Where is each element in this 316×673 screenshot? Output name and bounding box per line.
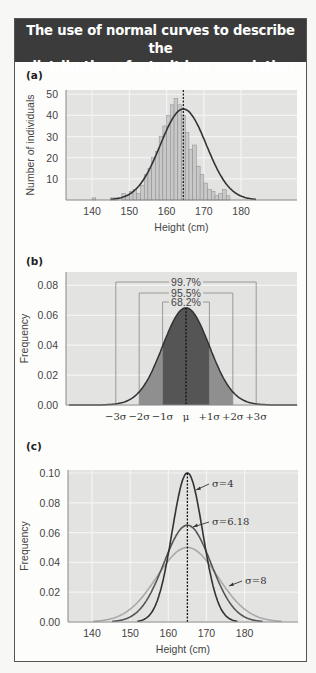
y-tick-label: 0.06: [40, 527, 61, 539]
histogram-bar: [219, 194, 223, 200]
y-tick-label: 0.02: [38, 369, 59, 381]
y-tick-label: 0.04: [40, 556, 61, 568]
x-tick-label: 140: [83, 627, 101, 639]
y-tick-label: 50: [46, 88, 58, 100]
histogram-bar: [211, 192, 215, 200]
x-axis-label: Height (cm): [156, 643, 210, 655]
x-tick-label: 160: [158, 205, 176, 217]
interval-label: 99.7%: [171, 276, 201, 288]
histogram-chart: 1020304050140150160170180Height (cm)Numb…: [24, 88, 297, 233]
x-tick-label: 170: [195, 205, 213, 217]
x-tick-label: −2σ: [128, 411, 150, 422]
histogram-bar: [141, 185, 145, 200]
series-label: σ=4: [212, 478, 234, 489]
y-tick-label: 0.00: [38, 399, 59, 411]
histogram-bar: [189, 149, 193, 200]
y-tick-label: 20: [46, 152, 58, 164]
y-tick-label: 0.02: [40, 586, 61, 598]
interval-label: 95.5%: [171, 287, 201, 299]
y-tick-label: 0.04: [38, 339, 59, 351]
x-tick-label: 160: [160, 627, 178, 639]
histogram-bar: [208, 189, 212, 200]
histogram-bar: [178, 105, 182, 200]
y-axis-label: Frequency: [18, 313, 30, 363]
variance-chart: 0.000.020.040.060.080.10140150160170180σ…: [18, 467, 298, 655]
y-axis-label: Number of individuals: [24, 95, 36, 196]
x-tick-label: 180: [232, 205, 250, 217]
y-tick-label: 0.08: [40, 497, 61, 509]
histogram-bar: [137, 194, 141, 200]
x-tick-label: 180: [236, 627, 254, 639]
histogram-bar: [226, 196, 230, 200]
histogram-bar: [200, 175, 204, 200]
x-tick-label: μ: [183, 411, 190, 422]
x-tick-label: −3σ: [105, 411, 127, 422]
histogram-bar: [222, 189, 226, 200]
x-tick-label: +2σ: [222, 411, 244, 422]
x-tick-label: 140: [83, 205, 101, 217]
y-tick-label: 30: [46, 131, 58, 143]
sigma-chart: 0.000.020.040.060.0868.2%95.5%99.7%−3σ−2…: [18, 272, 297, 422]
x-tick-label: 150: [121, 205, 139, 217]
histogram-bar: [196, 166, 200, 200]
y-tick-label: 0.00: [40, 616, 61, 628]
y-tick-label: 10: [46, 173, 58, 185]
y-tick-label: 40: [46, 109, 58, 121]
x-tick-label: +1σ: [199, 411, 221, 422]
y-tick-label: 0.08: [38, 279, 59, 291]
y-axis-label: Frequency: [18, 520, 30, 570]
charts-canvas: 1020304050140150160170180Height (cm)Numb…: [0, 0, 316, 673]
histogram-bar: [155, 151, 159, 200]
plot-area: [68, 470, 298, 622]
y-tick-label: 0.06: [38, 309, 59, 321]
histogram-bar: [204, 183, 208, 200]
x-tick-label: 170: [198, 627, 216, 639]
series-label: σ=8: [245, 575, 267, 586]
x-tick-label: +3σ: [245, 411, 267, 422]
x-tick-label: −1σ: [152, 411, 174, 422]
series-label: σ=6.18: [212, 516, 249, 527]
histogram-bar: [193, 145, 197, 200]
histogram-bar: [185, 132, 189, 200]
histogram-bar: [215, 196, 219, 200]
y-tick-label: 0.10: [40, 467, 61, 479]
histogram-bar: [148, 168, 152, 200]
x-tick-label: 150: [121, 627, 139, 639]
x-axis-label: Height (cm): [154, 221, 208, 233]
